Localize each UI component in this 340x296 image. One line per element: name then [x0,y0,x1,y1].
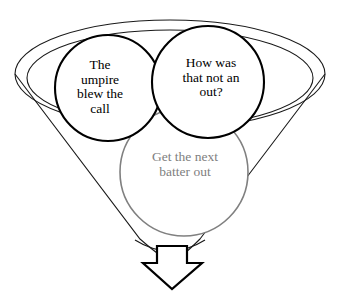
bubble-circle-out [152,26,264,138]
bubble-circle-umpire [55,35,161,141]
funnel-diagram-canvas [0,0,340,296]
output-arrow [143,246,202,289]
funnel-diagram: The umpire blew the call How was that no… [0,0,340,296]
